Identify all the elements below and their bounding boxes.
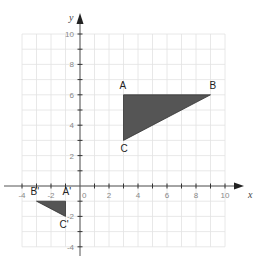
vertex-label-b-prime: B' <box>31 186 40 197</box>
x-tick-label: 10 <box>221 191 230 200</box>
origin-label: 0 <box>82 191 87 200</box>
y-axis-label: y <box>68 12 74 23</box>
coordinate-plane: -4-2246810-4-22468100xy ABCA'B'C' <box>0 0 258 270</box>
vertex-label-c-prime: C' <box>60 219 69 230</box>
y-tick-label: 8 <box>70 60 75 69</box>
x-tick-label: 8 <box>194 191 199 200</box>
y-tick-label: 6 <box>70 91 75 100</box>
x-tick-label: -4 <box>18 191 26 200</box>
x-tick-label: 2 <box>107 191 112 200</box>
x-tick-label: -2 <box>47 191 55 200</box>
vertex-label-c: C <box>121 143 128 154</box>
vertex-label-b: B <box>210 80 217 91</box>
y-tick-label: 10 <box>65 30 74 39</box>
y-tick-label: 2 <box>70 152 75 161</box>
x-axis-label: x <box>247 189 253 200</box>
x-tick-label: 6 <box>165 191 170 200</box>
y-tick-label: 4 <box>70 121 75 130</box>
vertex-label-a-prime: A' <box>63 186 72 197</box>
y-axis-arrow-icon <box>77 13 84 24</box>
x-tick-label: 4 <box>136 191 141 200</box>
vertex-label-a: A <box>120 80 127 91</box>
y-tick-label: -4 <box>67 243 75 252</box>
x-axis-arrow-icon <box>234 183 244 190</box>
